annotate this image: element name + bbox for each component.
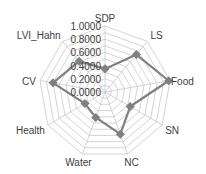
tick-label: 0.2000: [70, 74, 101, 85]
axis-spoke: [105, 92, 162, 125]
tick-label: 0.0000: [70, 87, 101, 98]
axis-label-food: Food: [171, 76, 194, 87]
tick-label: 0.4000: [70, 61, 101, 72]
tick-label: 0.8000: [70, 34, 101, 45]
axis-label-health: Health: [16, 125, 45, 136]
axis-label-ls: LS: [150, 30, 163, 41]
axis-label-sn: SN: [165, 125, 179, 136]
axis-label-lvi-hahn: LVI_Hahn: [17, 30, 61, 41]
axis-label-cv: CV: [22, 76, 36, 87]
tick-label: 0.6000: [70, 47, 101, 58]
axis-label-nc: NC: [124, 157, 138, 168]
radar-chart-svg: SDPLSFoodSNNCWaterHealthCVLVI_Hahn 0.000…: [0, 0, 206, 174]
tick-label: 1.0000: [70, 21, 101, 32]
data-point-marker: [100, 64, 109, 73]
axis-label-water: Water: [65, 157, 92, 168]
radar-chart: SDPLSFoodSNNCWaterHealthCVLVI_Hahn 0.000…: [0, 0, 206, 174]
